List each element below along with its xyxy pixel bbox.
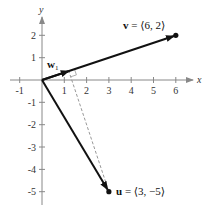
x-tick-label: 1 xyxy=(62,85,67,96)
x-tick-label: 2 xyxy=(84,85,89,96)
x-tick-label: 4 xyxy=(129,85,134,96)
y-tick-label: 2 xyxy=(31,30,36,41)
y-tick-label: -5 xyxy=(28,186,36,197)
vector-v-label: v = ⟨6, 2⟩ xyxy=(123,19,165,31)
y-tick-label: -1 xyxy=(28,97,36,108)
x-axis: -1 1 2 3 4 5 6 x xyxy=(10,74,202,96)
y-axis: 2 1 -1 -2 -3 -4 -5 y xyxy=(28,4,45,205)
y-tick-label: -4 xyxy=(28,164,36,175)
x-axis-label: x xyxy=(196,74,202,85)
x-tick-label: -1 xyxy=(16,85,24,96)
y-tick-label: 1 xyxy=(31,52,36,63)
x-tick-label: 3 xyxy=(106,85,111,96)
x-tick-label: 6 xyxy=(173,85,178,96)
projection-diagram: -1 1 2 3 4 5 6 x 2 1 -1 -2 - xyxy=(0,0,209,221)
vector-u-endpoint xyxy=(106,189,111,194)
x-tick-label: 5 xyxy=(151,85,156,96)
vector-w1-label: w1 xyxy=(47,58,59,72)
vector-u xyxy=(42,80,108,190)
vector-u-label: u = ⟨3, −5⟩ xyxy=(116,185,165,197)
y-tick-label: -3 xyxy=(28,142,36,153)
vector-v-endpoint xyxy=(173,33,178,38)
y-axis-label: y xyxy=(38,4,44,15)
y-tick-label: -2 xyxy=(28,119,36,130)
